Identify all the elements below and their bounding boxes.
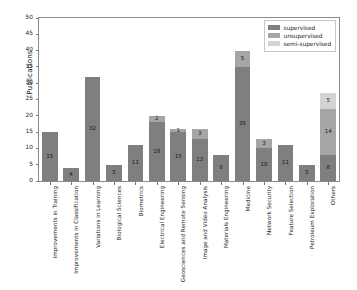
y-axis-tick-mark: [36, 132, 39, 133]
y-axis-tick-mark: [36, 181, 39, 182]
bar-segment[interactable]: 11: [278, 145, 294, 181]
bar-value-label: 15: [175, 154, 182, 160]
legend-item[interactable]: semi-supervised: [268, 40, 331, 48]
legend-item-label: unsupervised: [284, 33, 323, 39]
bar-value-label: 8: [219, 165, 223, 171]
bar-value-label: 3: [198, 131, 202, 137]
y-axis-tick-mark: [36, 99, 39, 100]
legend-item[interactable]: unsupervised: [268, 32, 331, 40]
bar-value-label: 2: [155, 116, 159, 122]
bar-group[interactable]: 11: [128, 145, 144, 181]
bar-value-label: 3: [262, 141, 266, 147]
bar-value-label: 4: [69, 172, 73, 178]
x-axis-tick-label: Improvements in Classification: [73, 186, 79, 274]
x-axis-tick-label: Biometrics: [138, 186, 144, 216]
bar-segment[interactable]: 18: [149, 122, 165, 181]
x-axis-tick-mark: [221, 182, 222, 185]
x-axis-tick-label: Electrical Engineering: [159, 186, 165, 248]
bar-segment[interactable]: 5: [235, 51, 251, 67]
y-axis-tick-label: 40: [26, 46, 33, 52]
legend-item-label: semi-supervised: [284, 41, 332, 47]
y-axis-tick-mark: [36, 164, 39, 165]
bar-group[interactable]: 151: [170, 129, 186, 181]
bar-segment[interactable]: 2: [149, 116, 165, 123]
y-axis-tick-label: 15: [26, 128, 33, 134]
bar-segment[interactable]: 11: [128, 145, 144, 181]
x-axis-tick-label: Feature Selection: [288, 186, 294, 236]
y-axis-tick-label: 50: [26, 14, 33, 20]
bar-segment[interactable]: 5: [106, 165, 122, 181]
x-axis-tick-mark: [285, 182, 286, 185]
bar-group[interactable]: 8145: [320, 93, 336, 181]
y-axis-tick-label: 5: [29, 161, 33, 167]
x-axis-tick-mark: [135, 182, 136, 185]
bar-segment[interactable]: 5: [320, 93, 336, 109]
bar-group[interactable]: 32: [85, 77, 101, 181]
bar-value-label: 8: [326, 165, 330, 171]
bar-value-label: 5: [241, 56, 245, 62]
bar-segment[interactable]: 8: [213, 155, 229, 181]
bar-segment[interactable]: 15: [170, 132, 186, 181]
bar-value-label: 10: [260, 162, 267, 168]
y-axis-tick-mark: [36, 66, 39, 67]
bar-segment[interactable]: 13: [192, 139, 208, 181]
bar-value-label: 5: [326, 98, 330, 104]
legend-item-label: supervised: [284, 25, 316, 31]
bar-group[interactable]: 15: [42, 132, 58, 181]
bar-value-label: 15: [46, 154, 53, 160]
y-axis-tick-label: 20: [26, 112, 33, 118]
bar-group[interactable]: 133: [192, 129, 208, 181]
y-axis-tick-mark: [36, 148, 39, 149]
x-axis-tick-mark: [178, 182, 179, 185]
x-axis-tick-label: Improvements in Training: [52, 186, 58, 258]
bar-group[interactable]: 5: [299, 165, 315, 181]
y-axis-tick-mark: [36, 83, 39, 84]
bar-value-label: 1: [176, 128, 180, 134]
bar-value-label: 18: [153, 149, 160, 155]
x-axis-tick-label: Image and Video Analysis: [202, 186, 208, 259]
x-axis-tick-mark: [264, 182, 265, 185]
bar-segment[interactable]: 5: [299, 165, 315, 181]
x-axis-tick-mark: [307, 182, 308, 185]
bar-group[interactable]: 355: [235, 51, 251, 181]
bar-group[interactable]: 11: [278, 145, 294, 181]
bar-value-label: 35: [239, 121, 246, 127]
bar-segment[interactable]: 32: [85, 77, 101, 181]
bar-segment[interactable]: 4: [63, 168, 79, 181]
x-axis-tick-mark: [200, 182, 201, 185]
x-axis-tick-label: Petroleum Exploration: [309, 186, 315, 249]
bar-group[interactable]: 5: [106, 165, 122, 181]
bar-group[interactable]: 4: [63, 168, 79, 181]
bar-group[interactable]: 103: [256, 139, 272, 181]
bar-segment[interactable]: 35: [235, 67, 251, 181]
y-axis-tick-label: 30: [26, 79, 33, 85]
y-axis-tick-mark: [36, 50, 39, 51]
y-axis-tick-label: 35: [26, 63, 33, 69]
x-axis-tick-label: Variations in Learning: [95, 186, 101, 248]
bar-group[interactable]: 182: [149, 116, 165, 181]
bar-segment[interactable]: 10: [256, 148, 272, 181]
x-axis-tick-label: Medicine: [245, 186, 251, 211]
x-axis-tick-mark: [328, 182, 329, 185]
x-axis-tick-mark: [50, 182, 51, 185]
legend-color-swatch: [268, 33, 280, 38]
bar-group[interactable]: 8: [213, 155, 229, 181]
bar-segment[interactable]: 1: [170, 129, 186, 132]
bar-chart-figure: Publications 05101520253035404550 154325…: [0, 0, 357, 290]
bar-segment[interactable]: 14: [320, 109, 336, 155]
y-axis-tick-label: 25: [26, 95, 33, 101]
x-axis-tick-mark: [157, 182, 158, 185]
legend-color-swatch: [268, 25, 280, 30]
y-axis-tick-label: 45: [26, 30, 33, 36]
x-axis-tick-mark: [243, 182, 244, 185]
chart-legend: supervisedunsupervisedsemi-supervised: [264, 20, 336, 52]
x-axis-tick-mark: [114, 182, 115, 185]
x-axis-tick-label: Biological Sciences: [116, 186, 122, 240]
legend-item[interactable]: supervised: [268, 24, 331, 32]
bar-segment[interactable]: 8: [320, 155, 336, 181]
x-axis-tick-label: Network Security: [266, 186, 272, 235]
bar-segment[interactable]: 3: [192, 129, 208, 139]
bar-segment[interactable]: 15: [42, 132, 58, 181]
bar-segment[interactable]: 3: [256, 139, 272, 149]
legend-color-swatch: [268, 41, 280, 46]
